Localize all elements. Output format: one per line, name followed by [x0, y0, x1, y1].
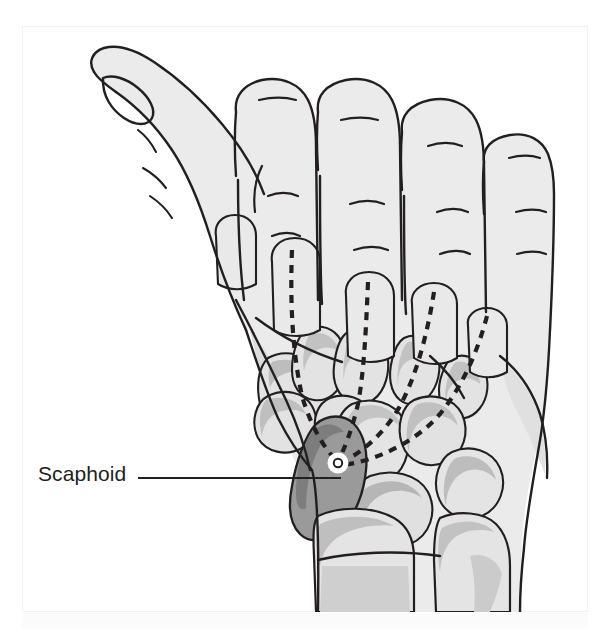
- figure-bottom-strip: [22, 613, 588, 629]
- phalanx-index: [272, 238, 320, 336]
- ring-finger-soft-tissue: [402, 99, 486, 312]
- radius-shaft-shadow: [320, 566, 410, 612]
- phalanx-thumb: [216, 215, 256, 289]
- scaphoid-callout-label: Scaphoid: [38, 463, 126, 484]
- little-finger-soft-tissue: [484, 134, 554, 330]
- scaphoid-marker: [329, 454, 348, 473]
- figure-root: Scaphoid: [0, 0, 610, 639]
- middle-finger-soft-tissue: [318, 79, 402, 304]
- hand-anatomy-illustration: [0, 0, 610, 639]
